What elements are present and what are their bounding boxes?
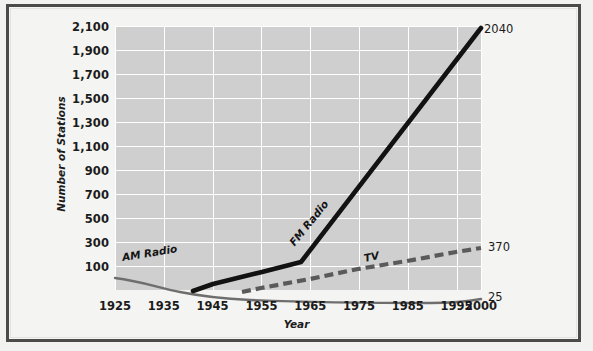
gridline-y-1900 xyxy=(115,50,481,51)
xtick-1945: 1945 xyxy=(185,299,241,313)
xtick-1925: 1925 xyxy=(87,299,143,313)
ytick-1900: 1,900 xyxy=(49,44,109,58)
gridline-y-100 xyxy=(115,266,481,267)
gridline-x-1955 xyxy=(261,26,262,290)
end-label-tv: 370 xyxy=(488,240,510,254)
xtick-1975: 1975 xyxy=(331,299,387,313)
chart-figure: 2,100 1,900 1,700 1,500 1,300 1,100 900 … xyxy=(0,0,593,351)
line-chart: 2,100 1,900 1,700 1,500 1,300 1,100 900 … xyxy=(0,0,593,351)
gridline-x-1945 xyxy=(213,26,214,290)
gridline-y-900 xyxy=(115,170,481,171)
y-axis-label: Number of Stations xyxy=(55,84,67,224)
ytick-300: 300 xyxy=(49,236,109,250)
xtick-1965: 1965 xyxy=(282,299,338,313)
gridline-x-1925 xyxy=(115,26,116,290)
xtick-1935: 1935 xyxy=(136,299,192,313)
gridline-x-1995 xyxy=(457,26,458,290)
gridline-y-1100 xyxy=(115,146,481,147)
gridline-x-1985 xyxy=(408,26,409,290)
x-axis-label: Year xyxy=(0,318,593,330)
gridline-y-700 xyxy=(115,194,481,195)
end-label-am-radio: 25 xyxy=(488,290,503,304)
ytick-100: 100 xyxy=(49,260,109,274)
gridline-y-1300 xyxy=(115,122,481,123)
ytick-2100: 2,100 xyxy=(49,20,109,34)
gridline-y-1500 xyxy=(115,98,481,99)
xtick-1985: 1985 xyxy=(380,299,436,313)
gridline-y-500 xyxy=(115,218,481,219)
ytick-1700: 1,700 xyxy=(49,68,109,82)
xtick-1955: 1955 xyxy=(233,299,289,313)
end-label-fm-radio: 2040 xyxy=(484,22,513,36)
gridline-y-1700 xyxy=(115,74,481,75)
gridline-x-1965 xyxy=(310,26,311,290)
gridline-x-1975 xyxy=(359,26,360,290)
gridline-y-2100 xyxy=(115,26,481,27)
gridline-x-2000 xyxy=(481,26,482,290)
